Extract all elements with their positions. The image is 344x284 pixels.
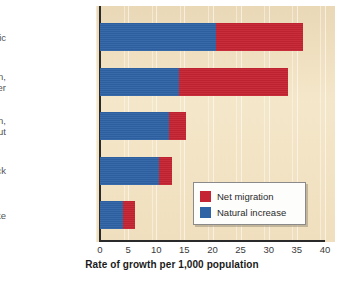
category-label-line: Asian, [0, 71, 6, 82]
x-tick-label-10: 10 [144, 244, 168, 255]
legend-label-net-migration: Net migration [217, 191, 274, 202]
category-label-american-indian-eskimo-aleut: American Indian,Eskimo, Aleut [0, 115, 6, 137]
x-tick-label-0: 0 [88, 244, 112, 255]
bar-segment-natural-increase [100, 23, 216, 51]
bar-row [100, 68, 288, 96]
legend-swatch-net-migration-icon [200, 191, 211, 202]
x-axis-line [99, 240, 325, 242]
x-tick-label-25: 25 [229, 244, 253, 255]
bar-segment-natural-increase [100, 68, 179, 96]
x-tick-label-20: 20 [201, 244, 225, 255]
bar-segment-net-migration [216, 23, 302, 51]
category-label-asian-pacific-islander: Asian,Pacific Islander [0, 71, 6, 93]
bar-segment-net-migration [169, 112, 185, 140]
bar-segment-natural-increase [100, 112, 169, 140]
x-tick-label-40: 40 [313, 244, 337, 255]
bar-segment-net-migration [123, 201, 135, 229]
legend-item-net-migration: Net migration [200, 188, 299, 204]
chart-legend: Net migration Natural increase [193, 182, 306, 225]
x-tick-label-35: 35 [285, 244, 309, 255]
bar-segment-natural-increase [100, 157, 159, 185]
bar-segment-net-migration [179, 68, 289, 96]
bar-segment-natural-increase [100, 201, 123, 229]
gridline-40 [325, 6, 326, 240]
category-label-line: White [0, 210, 6, 221]
category-label-line: Hispanic [0, 32, 6, 43]
x-tick-label-15: 15 [172, 244, 196, 255]
category-label-line: Black [0, 165, 6, 176]
x-axis-title: Rate of growth per 1,000 population [0, 259, 344, 270]
legend-label-natural-increase: Natural increase [217, 207, 286, 218]
bar-row [100, 112, 186, 140]
legend-item-natural-increase: Natural increase [200, 204, 299, 220]
category-label-black: Black [0, 165, 6, 176]
category-label-hispanic: Hispanic [0, 32, 6, 43]
category-label-line: American Indian, [0, 115, 6, 126]
chart-figure: HispanicAsian,Pacific IslanderAmerican I… [0, 0, 344, 284]
bar-segment-net-migration [159, 157, 173, 185]
x-tick-label-30: 30 [257, 244, 281, 255]
category-label-white: White [0, 210, 6, 221]
legend-swatch-natural-increase-icon [200, 207, 211, 218]
category-label-line: Eskimo, Aleut [0, 126, 6, 137]
bar-row [100, 23, 303, 51]
bar-row [100, 157, 172, 185]
category-label-line: Pacific Islander [0, 82, 6, 93]
bar-row [100, 201, 135, 229]
x-tick-label-5: 5 [116, 244, 140, 255]
